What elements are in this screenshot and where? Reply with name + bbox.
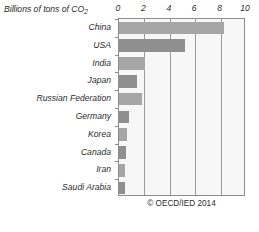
bar [119,111,129,123]
axis-title: Billions of tons of CO2 [4,4,116,15]
y-category-label: China [89,22,111,32]
x-tick-label: 8 [217,3,222,13]
gridline [195,19,196,195]
y-category-label: Saudi Arabia [62,182,111,192]
y-tickmark [115,126,119,127]
gridline [221,19,222,195]
y-tickmark [115,144,119,145]
y-tickmark [115,19,119,20]
bar [119,93,142,105]
chart-figure: Billions of tons of CO2 0246810 ChinaUSA… [0,0,259,232]
y-category-label: Iran [96,164,111,174]
bar [119,75,137,87]
y-category-label: Japan [88,75,111,85]
y-category-label: Germany [76,111,111,121]
x-axis-tick-labels: 0246810 [118,3,245,15]
bar [119,39,185,51]
x-tick-label: 4 [166,3,171,13]
bar [119,128,127,140]
y-category-label: USA [93,40,111,50]
axis-title-subscript: 2 [84,8,88,15]
y-tickmark [115,108,119,109]
y-tickmark [115,37,119,38]
y-tickmark [115,90,119,91]
bar [119,57,145,69]
y-category-label: Canada [81,147,111,157]
y-category-label: Korea [88,129,111,139]
y-tickmark [115,161,119,162]
y-tickmark [115,72,119,73]
x-tick-label: 6 [192,3,197,13]
credit-annotation: © OECD/IED 2014 [118,199,245,208]
x-tick-label: 10 [240,3,250,13]
y-tickmark [115,55,119,56]
bar [119,164,125,176]
plot-area [118,18,245,196]
x-tick-label: 0 [116,3,121,13]
bar [119,146,126,158]
y-tickmark [115,179,119,180]
bar [119,22,224,34]
y-axis-category-labels: ChinaUSAIndiaJapanRussian FederationGerm… [0,18,115,196]
x-tick-label: 2 [141,3,146,13]
bar [119,182,125,194]
y-category-label: Russian Federation [36,93,111,103]
axis-title-text: Billions of tons of CO [4,4,84,14]
y-category-label: India [92,58,111,68]
